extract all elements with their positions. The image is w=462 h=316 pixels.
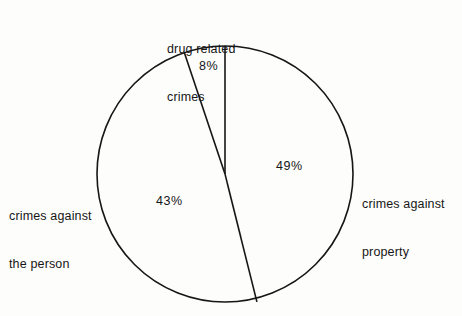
slice-label-person-line2: the person bbox=[9, 256, 92, 272]
slice-label-person-line1: crimes against bbox=[9, 208, 92, 224]
slice-value-crimes-against-the-person: 43% bbox=[156, 194, 183, 208]
slice-label-drug-related-line1: drug related bbox=[167, 41, 236, 57]
slice-value-drug-related-crimes: 8% bbox=[199, 59, 218, 73]
slice-label-drug-related-crimes: drug related crimes bbox=[167, 9, 236, 137]
slice-label-property-line2: property bbox=[362, 244, 445, 260]
slice-value-crimes-against-property: 49% bbox=[276, 159, 303, 173]
slice-label-crimes-against-the-person: crimes against the person bbox=[9, 176, 92, 304]
slice-label-crimes-against-property: crimes against property bbox=[362, 164, 445, 292]
slice-label-drug-related-line2: crimes bbox=[167, 89, 236, 105]
pie-chart-figure: drug related crimes crimes against prope… bbox=[0, 0, 462, 316]
slice-label-property-line1: crimes against bbox=[362, 196, 445, 212]
